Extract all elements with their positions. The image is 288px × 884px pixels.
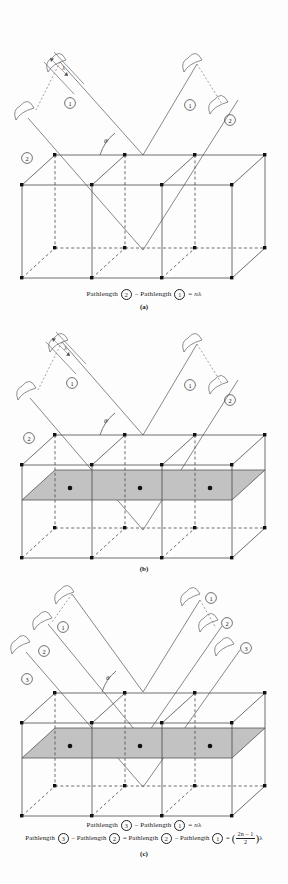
beam-label-incident-2-text: 2 — [42, 648, 45, 655]
panel-c: 1 2 3 1 2 3 θ Pathlength 3 – Pathlength … — [0, 582, 288, 884]
wave-glyph-reflected-2 — [199, 613, 218, 632]
caption-text: – Pathlength — [133, 821, 174, 829]
theta-label: θ — [104, 137, 108, 145]
lattice-depth-t0 — [22, 693, 55, 723]
wave-glyph-incident-2 — [33, 611, 52, 630]
beam-labels-panel-c: 1 2 3 1 2 3 — [22, 593, 252, 685]
beam-line-reflected-1 — [143, 600, 200, 692]
lattice-depth-t2 — [162, 155, 195, 185]
beam-label-incident-1-text: 1 — [68, 100, 71, 107]
lattice-depth-b3 — [232, 786, 265, 816]
panel-b-drawing: 1 2 1 2 θ λ — [0, 320, 288, 570]
beam-line-incident-3 — [26, 652, 143, 787]
beam-line-incident-1 — [62, 342, 143, 435]
lattice-depth-b3 — [232, 248, 265, 278]
caption-text: λ — [198, 821, 202, 829]
theta-label: θ — [106, 674, 110, 682]
wavelength-span — [50, 58, 68, 76]
beam-label-incident-2-text: 2 — [27, 435, 30, 442]
lattice-depth-t2 — [162, 435, 195, 465]
wave-glyph-reflected-3 — [215, 637, 234, 656]
paren-open: ( — [232, 834, 236, 843]
caption-line-a-0: Pathlength 2 – Pathlength 1 = nλ — [0, 289, 288, 300]
circled-beam-number: 1 — [174, 820, 185, 831]
lattice-depth-b0 — [22, 248, 55, 278]
circled-beam-number: 2 — [109, 833, 120, 844]
beam-dash-left — [36, 62, 60, 110]
theta-label: θ — [104, 417, 108, 425]
wave-glyph-incident-2 — [17, 381, 36, 400]
beam-label-incident-3-text: 3 — [25, 676, 28, 683]
lattice-depth-b1 — [92, 248, 125, 278]
theta-arc — [100, 413, 115, 435]
lattice-depth-t3 — [232, 435, 265, 465]
wave-glyph-reflected-1 — [181, 587, 200, 606]
panel-c-drawing: 1 2 3 1 2 3 θ — [0, 582, 288, 832]
circled-beam-number: 1 — [174, 289, 185, 300]
beam-line-incident-2 — [30, 398, 143, 530]
caption-text: = Pathlength — [121, 834, 160, 841]
panel-a-drawing: 1 2 1 2 θ λ — [0, 0, 288, 300]
beam-dash-right — [197, 64, 222, 104]
wavelength-label: λ — [63, 344, 67, 351]
beam-dash-right — [197, 344, 222, 384]
circled-beam-number: 1 — [212, 833, 223, 844]
panel-b: 1 2 1 2 θ λ (b) — [0, 320, 288, 582]
panel-letter-c: (c) — [0, 850, 288, 858]
caption-text: = — [224, 834, 231, 841]
beam-label-incident-2-text: 2 — [25, 155, 28, 162]
lattice-depth-b1 — [92, 786, 125, 816]
caption-text: Pathlength — [87, 290, 120, 298]
caption-panel-a: Pathlength 2 – Pathlength 1 = nλ — [0, 289, 288, 300]
lattice-depth-t1 — [92, 435, 125, 465]
fraction-denominator: 2 — [236, 839, 254, 846]
wavelength-bracket-1 — [56, 332, 86, 364]
beam-line-reflected-2 — [143, 380, 238, 530]
caption-line-c-1: Pathlength 3 – Pathlength 2 = Pathlength… — [0, 831, 288, 845]
beam-label-reflected-2-text: 2 — [225, 620, 228, 627]
lattice-depth-t3 — [232, 155, 265, 185]
beam-label-reflected-2-text: 2 — [228, 117, 231, 124]
beam-label-reflected-3-text: 3 — [244, 645, 247, 652]
caption-text: – Pathlength — [133, 290, 174, 298]
bragg-diffraction-figure: 1 2 1 2 θ λ Pathlength 2 – Pathlength 1 … — [0, 0, 288, 884]
wavelength-label: λ — [61, 64, 65, 71]
beam-line-reflected-2 — [143, 100, 238, 250]
caption-text: – Pathlength — [70, 834, 108, 841]
shaded-midplane — [22, 728, 265, 758]
lattice-depth-b1 — [92, 528, 125, 558]
beam-label-incident-1-text: 1 — [70, 380, 73, 387]
lattice-depth-b2 — [162, 248, 195, 278]
beam-line-incident-1 — [60, 62, 143, 155]
beam-line-reflected-1 — [143, 344, 197, 435]
caption-text: λ — [198, 290, 202, 298]
beam-label-reflected-1-text: 1 — [188, 102, 191, 109]
beam-line-reflected-1 — [143, 64, 197, 155]
lattice-depth-b0 — [22, 786, 55, 816]
lattice-depth-b3 — [232, 528, 265, 558]
circled-beam-number: 3 — [121, 820, 132, 831]
beam-label-incident-1-text: 1 — [61, 624, 64, 631]
beam-label-reflected-1-text: 1 — [209, 595, 212, 602]
wave-glyph-incident-3 — [11, 635, 30, 654]
beam-dash-left — [38, 342, 62, 390]
lattice-depth-t1 — [92, 155, 125, 185]
lattice-depth-t3 — [232, 693, 265, 723]
panel-a: 1 2 1 2 θ λ Pathlength 2 – Pathlength 1 … — [0, 0, 288, 320]
beam-label-reflected-2-text: 2 — [228, 397, 231, 404]
lattice-atoms — [20, 153, 266, 279]
panel-letter-a: (a) — [0, 303, 288, 311]
lattice-depth-b0 — [22, 528, 55, 558]
caption-text: Pathlength — [25, 834, 56, 841]
fraction: 2n – 12 — [236, 831, 254, 845]
panel-letter-b: (b) — [0, 565, 288, 573]
lattice-depth-b2 — [162, 786, 195, 816]
wavelength-bracket-1 — [54, 52, 84, 84]
shaded-midplane — [22, 470, 265, 500]
caption-text: Pathlength — [87, 821, 120, 829]
beam-label-reflected-1-text: 1 — [188, 382, 191, 389]
wave-glyph-reflected-1 — [183, 53, 202, 72]
beam-line-incident-2 — [28, 118, 143, 250]
lattice-depth-t2 — [162, 693, 195, 723]
circled-beam-number: 2 — [121, 289, 132, 300]
